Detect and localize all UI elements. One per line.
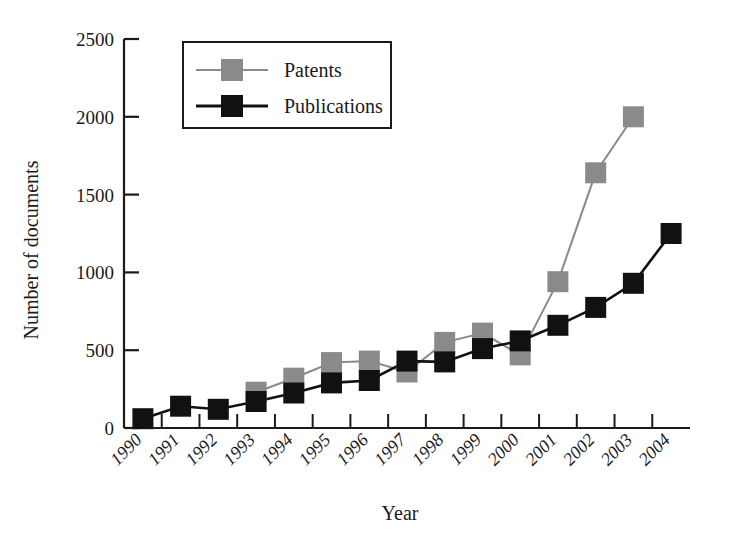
data-point-publications: [208, 399, 229, 420]
data-point-publications: [585, 297, 606, 318]
data-point-publications: [132, 408, 153, 429]
data-point-publications: [661, 223, 682, 244]
data-point-publications: [510, 330, 531, 351]
y-axis-title: Number of documents: [20, 160, 42, 339]
legend-marker-patents: [221, 59, 243, 81]
y-tick-label: 1000: [76, 262, 114, 283]
data-point-patents: [585, 162, 606, 183]
x-axis-title: Year: [382, 502, 419, 524]
data-point-publications: [623, 273, 644, 294]
y-tick-label: 0: [105, 418, 115, 439]
data-point-patents: [321, 352, 342, 373]
data-point-publications: [472, 338, 493, 359]
y-tick-label: 2500: [76, 29, 114, 50]
data-point-publications: [547, 315, 568, 336]
line-chart: 05001000150020002500 1990199119921993199…: [0, 0, 752, 539]
data-point-publications: [434, 351, 455, 372]
chart-container: 05001000150020002500 1990199119921993199…: [0, 0, 752, 539]
data-point-patents: [359, 351, 380, 372]
data-point-patents: [547, 271, 568, 292]
legend: PatentsPublications: [183, 42, 391, 128]
data-point-publications: [359, 370, 380, 391]
data-point-publications: [283, 383, 304, 404]
data-point-patents: [623, 106, 644, 127]
y-tick-label: 2000: [76, 107, 114, 128]
y-tick-label: 500: [86, 340, 115, 361]
legend-label-patents: Patents: [284, 59, 342, 81]
legend-label-publications: Publications: [284, 95, 383, 117]
data-point-publications: [321, 372, 342, 393]
data-point-patents: [434, 332, 455, 353]
y-tick-label: 1500: [76, 185, 114, 206]
legend-marker-publications: [221, 95, 243, 117]
data-point-publications: [246, 391, 267, 412]
data-point-publications: [170, 396, 191, 417]
data-point-publications: [397, 351, 418, 372]
